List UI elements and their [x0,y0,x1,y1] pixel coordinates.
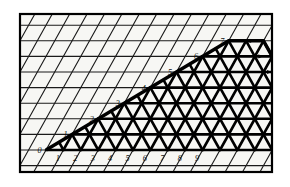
axis-bottom-tick-3: 3 [90,154,95,163]
arrowhead-right [276,86,280,90]
axis-bottom-tick-9: 9 [195,154,199,163]
axis-bottom-tick-4: 4 [108,154,112,163]
axis-bottom-tick-8: 8 [178,154,182,163]
axis-bottom-tick-5: 5 [125,154,129,163]
arrowhead-right [285,101,289,105]
lattice-diagram: 01234567123456789A [0,0,290,187]
axis-left-tick-4: 4 [142,84,146,93]
axis-left-tick-2: 2 [90,115,94,124]
axis-bottom-tick-1: 1 [56,154,60,163]
axis-left-tick-1: 1 [64,130,68,139]
grid-line-diagonal-up [0,0,11,187]
axis-bottom-tick-2: 2 [73,154,77,163]
axis-left-tick-0: 0 [37,146,41,155]
figure-container: 01234567123456789A [0,0,290,187]
axis-left-tick-3: 3 [115,99,120,108]
grid-line-diagonal-up [272,0,290,187]
axis-left-tick-5: 5 [168,68,172,77]
bold-line-diagonal-up [272,103,290,150]
